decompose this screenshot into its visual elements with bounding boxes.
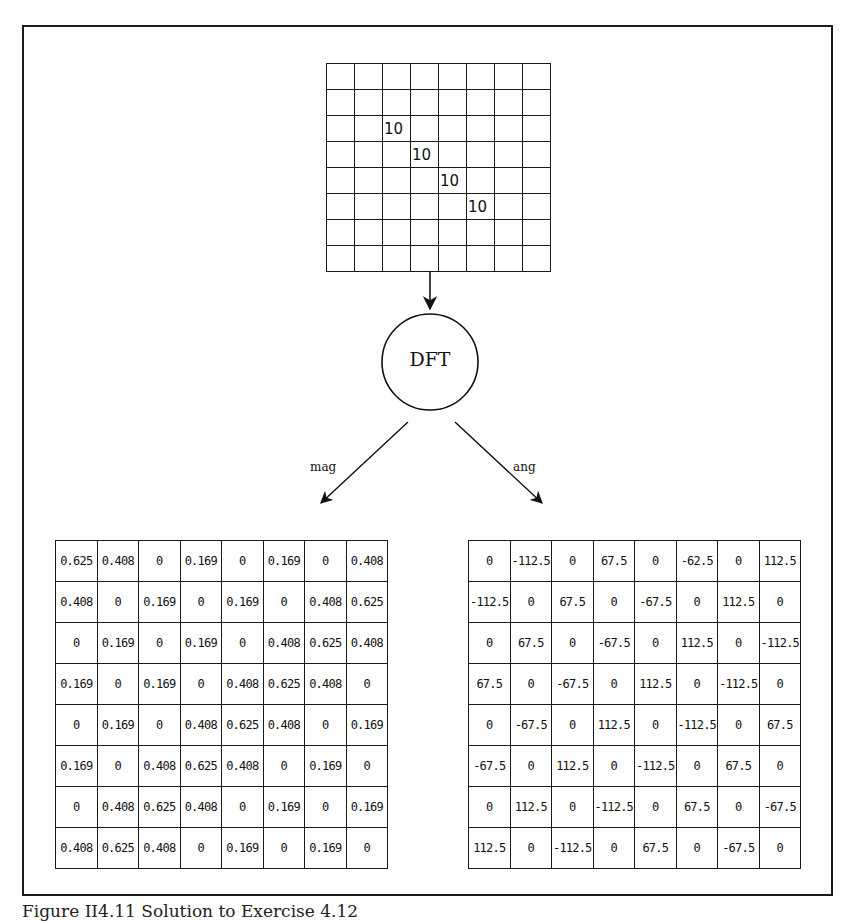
grid-cell: 0 — [593, 664, 635, 705]
grid-cell: 0 — [676, 746, 718, 787]
grid-cell: 0.169 — [97, 623, 139, 664]
grid-cell: 0.169 — [180, 541, 222, 582]
grid-cell — [327, 194, 355, 220]
grid-cell: 0.625 — [263, 664, 305, 705]
grid-cell: 0.408 — [346, 623, 388, 664]
magnitude-branch-label: mag — [310, 460, 336, 474]
grid-cell: 0 — [676, 828, 718, 869]
grid-cell: -112.5 — [676, 705, 718, 746]
grid-cell: 0 — [97, 664, 139, 705]
grid-cell: 0 — [97, 582, 139, 623]
grid-cell: 0 — [635, 787, 677, 828]
grid-cell — [495, 168, 523, 194]
grid-cell: -67.5 — [759, 787, 801, 828]
grid-cell — [523, 116, 551, 142]
grid-cell — [439, 220, 467, 246]
grid-cell: 0.169 — [305, 746, 347, 787]
grid-row: -112.5067.50-67.50112.50 — [469, 582, 801, 623]
grid-cell — [495, 116, 523, 142]
grid-cell: 0 — [305, 705, 347, 746]
grid-cell — [495, 90, 523, 116]
grid-cell: 0 — [97, 746, 139, 787]
grid-cell: 0 — [180, 828, 222, 869]
grid-row: 0.16900.16900.4080.6250.4080 — [56, 664, 388, 705]
grid-cell — [439, 64, 467, 90]
grid-cell: 0.169 — [139, 664, 181, 705]
grid-cell: 0.169 — [222, 828, 264, 869]
grid-cell: 0.408 — [222, 664, 264, 705]
grid-cell: 0 — [263, 746, 305, 787]
grid-cell: 0.408 — [139, 746, 181, 787]
grid-cell — [411, 220, 439, 246]
grid-cell: 67.5 — [552, 582, 594, 623]
grid-cell — [411, 168, 439, 194]
grid-cell — [327, 168, 355, 194]
grid-cell — [327, 116, 355, 142]
grid-cell: 0 — [510, 746, 552, 787]
grid-cell: -112.5 — [552, 828, 594, 869]
figure-caption: Figure II4.11 Solution to Exercise 4.12 — [22, 901, 358, 921]
grid-cell: 0 — [635, 623, 677, 664]
grid-cell: 67.5 — [759, 705, 801, 746]
grid-cell: 0.169 — [346, 787, 388, 828]
grid-cell: 67.5 — [510, 623, 552, 664]
grid-cell — [355, 90, 383, 116]
grid-cell: 112.5 — [510, 787, 552, 828]
grid-cell: 0 — [469, 705, 511, 746]
grid-cell — [327, 90, 355, 116]
grid-cell: 0.625 — [56, 541, 98, 582]
grid-cell — [523, 220, 551, 246]
grid-cell — [523, 142, 551, 168]
grid-cell: 0 — [346, 746, 388, 787]
grid-cell — [411, 194, 439, 220]
grid-cell — [467, 168, 495, 194]
grid-cell: 112.5 — [676, 623, 718, 664]
grid-cell — [383, 220, 411, 246]
grid-row: 10 — [327, 194, 551, 220]
grid-cell — [355, 142, 383, 168]
grid-cell: -112.5 — [635, 746, 677, 787]
grid-cell: 0.169 — [263, 541, 305, 582]
grid-cell: 0.408 — [222, 746, 264, 787]
grid-cell: 67.5 — [635, 828, 677, 869]
grid-row: 67.50-67.50112.50-112.50 — [469, 664, 801, 705]
grid-cell: 0.169 — [305, 828, 347, 869]
grid-cell — [523, 246, 551, 272]
grid-cell — [523, 194, 551, 220]
grid-cell — [355, 220, 383, 246]
grid-cell — [383, 246, 411, 272]
grid-cell: 0 — [635, 541, 677, 582]
grid-cell: 0 — [263, 582, 305, 623]
grid-cell: 112.5 — [635, 664, 677, 705]
grid-cell: 0.169 — [97, 705, 139, 746]
grid-cell: 0 — [263, 828, 305, 869]
grid-cell — [411, 116, 439, 142]
grid-cell: 0.625 — [222, 705, 264, 746]
grid-cell: -67.5 — [469, 746, 511, 787]
grid-cell: 0 — [718, 787, 760, 828]
grid-row: 112.50-112.5067.50-67.50 — [469, 828, 801, 869]
grid-cell: 0 — [222, 787, 264, 828]
grid-cell: 0 — [759, 664, 801, 705]
grid-cell: 0.408 — [263, 705, 305, 746]
grid-cell: 0 — [552, 623, 594, 664]
grid-cell — [383, 142, 411, 168]
angle-branch-label: ang — [513, 460, 536, 474]
grid-cell: 0.408 — [139, 828, 181, 869]
grid-cell: 0 — [139, 541, 181, 582]
grid-cell: 0.408 — [346, 541, 388, 582]
grid-cell: 0 — [759, 582, 801, 623]
grid-cell: 0.169 — [263, 787, 305, 828]
grid-cell: -112.5 — [593, 787, 635, 828]
grid-cell — [523, 168, 551, 194]
grid-cell — [439, 194, 467, 220]
grid-cell — [355, 168, 383, 194]
grid-row: 0.6250.40800.16900.16900.408 — [56, 541, 388, 582]
grid-cell: 112.5 — [469, 828, 511, 869]
grid-cell: 0.408 — [263, 623, 305, 664]
grid-cell: 0 — [718, 705, 760, 746]
grid-cell — [439, 142, 467, 168]
grid-cell — [411, 64, 439, 90]
grid-cell — [439, 246, 467, 272]
grid-cell: 10 — [439, 168, 467, 194]
